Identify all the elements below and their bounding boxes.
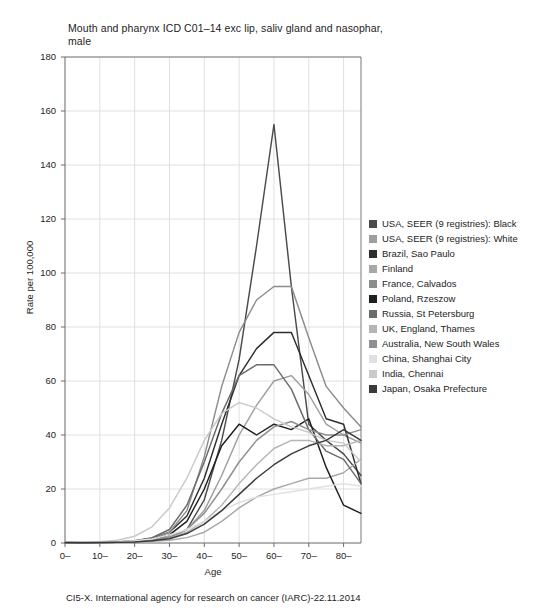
x-tick-label: 30– xyxy=(152,551,186,561)
legend-color-swatch xyxy=(369,295,377,303)
y-tick-label: 0 xyxy=(22,538,56,548)
legend-item-label: Australia, New South Wales xyxy=(382,338,499,349)
legend-item-label: USA, SEER (9 registries): White xyxy=(382,233,518,244)
y-tick-label: 20 xyxy=(22,484,56,494)
legend-item-label: India, Chennai xyxy=(382,368,443,379)
y-tick-label: 100 xyxy=(22,268,56,278)
legend-item[interactable]: Poland, Rzeszow xyxy=(369,291,545,306)
legend-item-label: USA, SEER (9 registries): Black xyxy=(382,218,517,229)
legend-color-swatch xyxy=(369,355,377,363)
x-tick-label: 10– xyxy=(83,551,117,561)
y-tick-label: 120 xyxy=(22,214,56,224)
y-tick-label: 180 xyxy=(22,52,56,62)
legend-item-label: Poland, Rzeszow xyxy=(382,293,455,304)
legend-item-label: China, Shanghai City xyxy=(382,353,471,364)
x-tick-label: 40– xyxy=(187,551,221,561)
x-tick-label: 0– xyxy=(48,551,82,561)
legend-item[interactable]: UK, England, Thames xyxy=(369,321,545,336)
legend-item-label: Finland xyxy=(382,263,413,274)
legend-item[interactable]: Finland xyxy=(369,261,545,276)
chart-page: Mouth and pharynx ICD C01–14 exc lip, sa… xyxy=(0,0,545,616)
legend-item[interactable]: France, Calvados xyxy=(369,276,545,291)
legend-item-label: Japan, Osaka Prefecture xyxy=(382,383,487,394)
y-tick-label: 60 xyxy=(22,376,56,386)
legend-item-label: Brazil, Sao Paulo xyxy=(382,248,455,259)
legend-item-label: Russia, St Petersburg xyxy=(382,308,474,319)
series-line xyxy=(65,287,361,543)
legend-color-swatch xyxy=(369,250,377,258)
y-tick-label: 140 xyxy=(22,160,56,170)
legend-color-swatch xyxy=(369,220,377,228)
legend-color-swatch xyxy=(369,310,377,318)
legend-color-swatch xyxy=(369,235,377,243)
legend-item[interactable]: China, Shanghai City xyxy=(369,351,545,366)
series-line xyxy=(65,430,361,543)
x-tick-label: 50– xyxy=(222,551,256,561)
legend-item[interactable]: USA, SEER (9 registries): White xyxy=(369,231,545,246)
legend-item[interactable]: Japan, Osaka Prefecture xyxy=(369,381,545,396)
chart-legend: USA, SEER (9 registries): BlackUSA, SEER… xyxy=(369,216,545,396)
y-tick-label: 160 xyxy=(22,106,56,116)
footer-source-note: CI5-X. International agency for research… xyxy=(66,592,486,603)
x-axis-title: Age xyxy=(65,566,361,577)
legend-item[interactable]: India, Chennai xyxy=(369,366,545,381)
legend-item-label: France, Calvados xyxy=(382,278,456,289)
x-tick-label: 60– xyxy=(257,551,291,561)
legend-item[interactable]: USA, SEER (9 registries): Black xyxy=(369,216,545,231)
legend-color-swatch xyxy=(369,325,377,333)
legend-item-label: UK, England, Thames xyxy=(382,323,475,334)
x-tick-label: 80– xyxy=(327,551,361,561)
y-tick-label: 80 xyxy=(22,322,56,332)
legend-item[interactable]: Australia, New South Wales xyxy=(369,336,545,351)
legend-item[interactable]: Brazil, Sao Paulo xyxy=(369,246,545,261)
legend-color-swatch xyxy=(369,280,377,288)
legend-color-swatch xyxy=(369,265,377,273)
legend-item[interactable]: Russia, St Petersburg xyxy=(369,306,545,321)
x-tick-label: 20– xyxy=(118,551,152,561)
series-line xyxy=(65,125,361,543)
x-tick-label: 70– xyxy=(292,551,326,561)
legend-color-swatch xyxy=(369,340,377,348)
y-tick-label: 40 xyxy=(22,430,56,440)
legend-color-swatch xyxy=(369,370,377,378)
legend-color-swatch xyxy=(369,385,377,393)
